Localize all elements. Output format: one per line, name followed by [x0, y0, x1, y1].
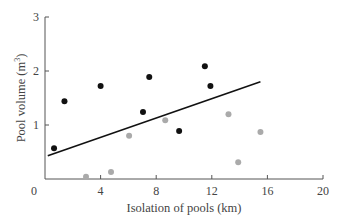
x-tick-label: 8 [153, 184, 159, 198]
data-point-black [146, 74, 152, 80]
data-point-gray [126, 133, 132, 139]
data-point-gray [108, 169, 114, 175]
x-axis-label: Isolation of pools (km) [127, 201, 242, 215]
data-point-gray [83, 174, 89, 180]
data-point-gray [235, 159, 241, 165]
axes [45, 17, 323, 179]
x-tick-label: 4 [98, 184, 104, 198]
y-tick-label: 3 [33, 10, 39, 24]
trend-line [48, 82, 261, 156]
x-tick-label: 12 [206, 184, 218, 198]
data-point-black [207, 83, 213, 89]
data-point-black [176, 128, 182, 134]
data-point-black [140, 109, 146, 115]
y-tick-label: 1 [33, 118, 39, 132]
scatter-chart: 012348121620 Isolation of pools (km) Poo… [0, 0, 348, 220]
y-axis-label: Pool volume (m3) [13, 54, 28, 143]
data-points [51, 63, 263, 180]
x-tick-label: 16 [261, 184, 273, 198]
tick-labels: 012348121620 [31, 10, 329, 198]
data-point-black [61, 98, 67, 104]
data-point-gray [162, 117, 168, 123]
x-tick-label: 20 [317, 184, 329, 198]
data-point-black [202, 63, 208, 69]
data-point-black [51, 145, 57, 151]
data-point-black [98, 83, 104, 89]
y-tick-label: 0 [31, 184, 37, 198]
y-tick-label: 2 [33, 64, 39, 78]
data-point-gray [257, 129, 263, 135]
data-point-gray [225, 111, 231, 117]
